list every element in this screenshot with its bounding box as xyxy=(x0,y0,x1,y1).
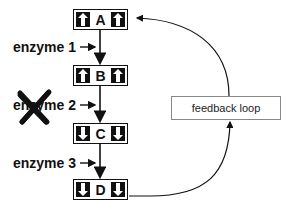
feedback-loop-box: feedback loop xyxy=(171,96,281,120)
feedback-loop-label: feedback loop xyxy=(192,102,261,114)
